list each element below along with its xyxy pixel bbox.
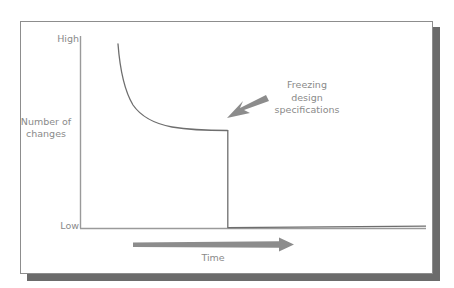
x-axis-title: Time	[186, 252, 240, 264]
changes-curve	[118, 44, 228, 131]
y-axis-high-label: High	[55, 33, 79, 45]
post-freeze-flat-line	[228, 226, 426, 227]
freeze-annotation-label: Freezing design specifications	[260, 79, 354, 117]
y-axis-title: Number of changes	[14, 116, 78, 140]
y-axis-low-label: Low	[55, 220, 79, 232]
figure-container: High Low Number of changes Time Freezing…	[0, 0, 454, 288]
arrow-right-icon	[133, 238, 294, 252]
